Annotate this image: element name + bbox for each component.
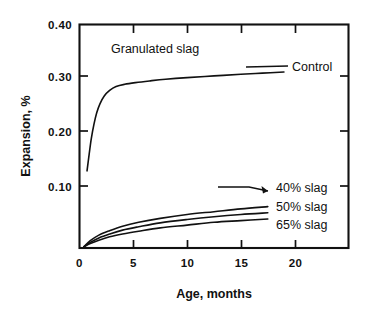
series-line-control: [87, 72, 284, 171]
plot-frame: [80, 25, 349, 249]
y-axis-title: Expansion, %: [19, 95, 33, 176]
control-leader-line: [246, 66, 288, 67]
annotation-50-slag: 50% slag: [276, 200, 327, 214]
x-tick-label-20: 20: [289, 257, 303, 269]
annotation-granulated-slag: Granulated slag: [111, 42, 199, 56]
y-tick-label-020: 0.20: [48, 126, 72, 138]
x-tick-label-15: 15: [235, 257, 249, 269]
expansion-vs-age-chart: 0.40 0.30 0.20 0.10 0 5 10 15 20 Expansi…: [0, 0, 366, 310]
annotation-control: Control: [292, 60, 332, 74]
x-axis-title: Age, months: [176, 287, 252, 301]
y-tick-label-040: 0.40: [48, 19, 72, 31]
y-tick-label-010: 0.10: [48, 181, 72, 193]
x-tick-label-0: 0: [76, 257, 83, 269]
chart-svg: 0.40 0.30 0.20 0.10 0 5 10 15 20 Expansi…: [0, 0, 366, 310]
x-tick-label-5: 5: [130, 257, 137, 269]
y-tick-label-030: 0.30: [48, 71, 72, 83]
slag-40-leader-line: [218, 187, 268, 191]
annotation-65-slag: 65% slag: [276, 218, 327, 232]
x-tick-label-10: 10: [181, 257, 195, 269]
annotation-40-slag: 40% slag: [276, 181, 327, 195]
y-axis-ticks: [80, 76, 349, 186]
slag-40-arrowhead: [262, 186, 269, 194]
x-axis-ticks: [134, 25, 296, 249]
